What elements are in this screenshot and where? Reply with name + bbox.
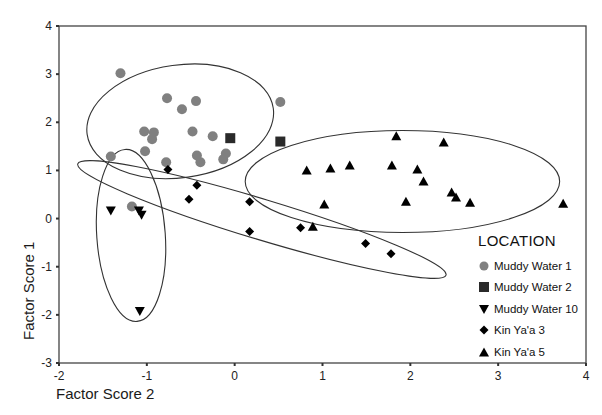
y-tick-label: 4	[45, 19, 52, 33]
x-tick-label: 4	[583, 369, 590, 383]
data-point-circle	[140, 146, 150, 156]
data-point-triangle-down	[137, 211, 147, 220]
data-point-circle	[106, 151, 116, 161]
x-tick-label: -1	[141, 369, 152, 383]
confidence-ellipse	[245, 130, 559, 232]
data-point-triangle-up	[401, 197, 411, 206]
data-point-triangle-up	[345, 161, 355, 170]
x-tick-label: -2	[54, 369, 65, 383]
y-tick-label: 0	[45, 212, 52, 226]
circle-marker-icon	[478, 260, 490, 272]
legend: LOCATION Muddy Water 1 Muddy Water 2 Mud…	[478, 232, 586, 363]
data-point-circle	[188, 126, 198, 136]
data-point-triangle-up	[419, 177, 429, 186]
legend-label: Muddy Water 10	[494, 303, 578, 315]
data-point-triangle-up	[387, 161, 397, 170]
legend-item-kin-yaa-3: Kin Ya'a 3	[478, 320, 586, 342]
confidence-ellipse	[79, 52, 281, 190]
x-tick-label: 3	[495, 369, 502, 383]
data-point-diamond	[296, 223, 305, 232]
y-tick-label: -1	[41, 260, 52, 274]
data-point-circle	[162, 93, 172, 103]
data-point-diamond	[361, 239, 370, 248]
triangle-up-marker-icon	[478, 346, 490, 358]
y-axis-title: Factor Score 1	[20, 242, 37, 340]
data-point-triangle-up	[391, 131, 401, 140]
x-tick-label: 2	[407, 369, 414, 383]
legend-item-muddy-water-2: Muddy Water 2	[478, 277, 586, 299]
x-tick-label: 1	[319, 369, 326, 383]
legend-label: Kin Ya'a 3	[494, 324, 545, 336]
triangle-down-marker-icon	[478, 303, 490, 315]
y-tick-label: 3	[45, 67, 52, 81]
square-marker-icon	[478, 281, 490, 293]
data-point-circle	[275, 97, 285, 107]
x-tick-label: 0	[231, 369, 238, 383]
legend-item-kin-yaa-5: Kin Ya'a 5	[478, 341, 586, 363]
y-tick-label: -3	[41, 356, 52, 370]
data-point-circle	[139, 126, 149, 136]
legend-label: Muddy Water 2	[494, 281, 572, 293]
y-tick-label: 1	[45, 163, 52, 177]
data-point-circle	[195, 157, 205, 167]
data-point-triangle-up	[302, 165, 312, 174]
x-axis-title: Factor Score 2	[56, 385, 154, 402]
diamond-marker-icon	[478, 324, 490, 336]
legend-label: Kin Ya'a 5	[494, 346, 545, 358]
data-point-circle	[161, 157, 171, 167]
data-point-triangle-up	[465, 198, 475, 207]
data-point-diamond	[387, 249, 396, 258]
y-tick-label: 2	[45, 115, 52, 129]
data-point-triangle-down	[106, 206, 116, 215]
data-point-circle	[208, 131, 218, 141]
data-point-triangle-up	[439, 138, 449, 147]
data-point-triangle-down	[135, 307, 145, 316]
data-point-circle	[191, 96, 201, 106]
data-point-triangle-up	[319, 200, 329, 209]
legend-item-muddy-water-1: Muddy Water 1	[478, 255, 586, 277]
data-point-diamond	[245, 197, 254, 206]
legend-title: LOCATION	[478, 232, 586, 249]
legend-item-muddy-water-10: Muddy Water 10	[478, 298, 586, 320]
data-point-circle	[115, 68, 125, 78]
data-point-circle	[218, 154, 228, 164]
data-point-diamond	[245, 227, 254, 236]
data-point-circle	[147, 134, 157, 144]
data-point-triangle-up	[558, 199, 568, 208]
data-point-square	[275, 137, 285, 147]
y-tick-label: -2	[41, 308, 52, 322]
data-point-square	[225, 133, 235, 143]
legend-label: Muddy Water 1	[494, 260, 572, 272]
data-point-circle	[177, 104, 187, 114]
data-point-diamond	[184, 195, 193, 204]
data-point-triangle-up	[325, 164, 335, 173]
data-point-diamond	[192, 181, 201, 190]
data-point-triangle-up	[412, 164, 422, 173]
